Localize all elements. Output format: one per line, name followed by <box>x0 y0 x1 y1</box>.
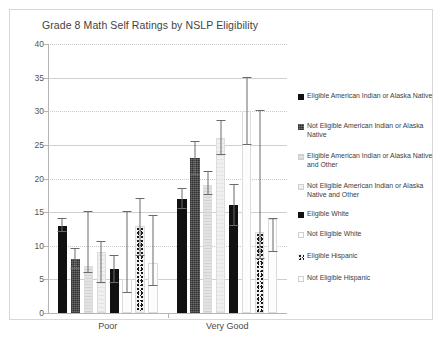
error-bar-cap-lower <box>110 282 119 283</box>
y-axis-tick-mark <box>44 179 48 180</box>
chart-frame: Grade 8 Math Self Ratings by NSLP Eligib… <box>9 9 433 320</box>
error-bar <box>58 219 67 313</box>
legend-swatch-icon <box>298 154 304 160</box>
error-bar-cap-upper <box>177 188 186 189</box>
error-bar-stem <box>181 189 182 209</box>
legend-swatch-icon <box>298 276 304 282</box>
error-bar-cap-upper <box>110 255 119 256</box>
y-axis-tick-label: 35 <box>18 73 44 83</box>
y-axis-tick-label: 0 <box>18 308 44 318</box>
y-axis-tick-label: 15 <box>18 207 44 217</box>
legend-item[interactable]: Not Eligible American Indian or Alaska N… <box>298 122 443 139</box>
error-bar-cap-lower <box>216 154 225 155</box>
error-bar-cap-lower <box>268 251 277 252</box>
legend-item[interactable]: Eligible American Indian or Alaska Nativ… <box>298 152 443 169</box>
legend-item-label: Not Eligible White <box>307 230 361 239</box>
error-bar-cap-upper <box>84 211 93 212</box>
error-bar-stem <box>140 199 141 256</box>
legend-item[interactable]: Eligible American Indian or Alaska Nativ… <box>298 92 432 101</box>
legend-swatch-icon <box>298 232 304 238</box>
y-axis-tick-mark <box>44 212 48 213</box>
y-axis-tick-label: 20 <box>18 174 44 184</box>
error-bar <box>84 212 93 313</box>
legend-item-label: Not Eligible American Indian or Alaska N… <box>307 122 443 139</box>
error-bar <box>203 172 212 313</box>
error-bar-cap-lower <box>97 282 106 283</box>
error-bar-cap-upper <box>268 218 277 219</box>
error-bar-cap-upper <box>203 171 212 172</box>
x-axis-category-label: Very Good <box>168 321 288 331</box>
error-bar <box>255 111 264 313</box>
legend-item-label: Eligible American Indian or Alaska Nativ… <box>307 92 432 101</box>
legend-swatch-icon <box>298 212 304 218</box>
y-axis-tick-mark <box>44 279 48 280</box>
error-bar-cap-upper <box>71 248 80 249</box>
y-axis-tick-mark <box>44 313 48 314</box>
legend-item-label: Eligible American Indian or Alaska Nativ… <box>307 152 443 169</box>
error-bar-cap-upper <box>255 110 264 111</box>
error-bar-stem <box>101 242 102 282</box>
x-axis-separator <box>168 313 169 318</box>
error-bar-cap-upper <box>123 211 132 212</box>
error-bar-cap-lower <box>58 231 67 232</box>
legend-item-label: Eligible White <box>307 210 349 219</box>
error-bar <box>216 121 225 313</box>
error-bar <box>229 185 238 313</box>
error-bar-stem <box>220 121 221 155</box>
error-bar-cap-upper <box>242 77 251 78</box>
legend-item[interactable]: Not Eligible American Indian or Alaska N… <box>298 182 443 199</box>
error-bar-cap-upper <box>229 184 238 185</box>
y-axis-tick-label: 10 <box>18 241 44 251</box>
error-bar-cap-upper <box>149 215 158 216</box>
x-axis-category-label: Poor <box>48 321 168 331</box>
plot-area <box>48 44 287 313</box>
error-bar-stem <box>153 216 154 287</box>
legend-item-label: Not Eligible Hispanic <box>307 274 370 283</box>
error-bar-stem <box>259 111 260 259</box>
error-bar-cap-lower <box>177 208 186 209</box>
error-bar <box>122 212 131 313</box>
error-bar-cap-upper <box>136 198 145 199</box>
legend-item-label: Not Eligible American Indian or Alaska N… <box>307 182 443 199</box>
legend-item[interactable]: Eligible White <box>298 210 349 219</box>
error-bar-stem <box>88 212 89 273</box>
y-axis-tick-label: 25 <box>18 140 44 150</box>
legend-swatch-icon <box>298 94 304 100</box>
legend-item[interactable]: Not Eligible White <box>298 230 361 239</box>
error-bar-cap-lower <box>136 255 145 256</box>
y-axis-tick-label: 5 <box>18 274 44 284</box>
gridline <box>48 44 287 45</box>
error-bar-cap-lower <box>149 285 158 286</box>
error-bar-stem <box>127 212 128 293</box>
chart-title: Grade 8 Math Self Ratings by NSLP Eligib… <box>10 19 290 31</box>
error-bar <box>110 256 119 313</box>
error-bar-stem <box>62 219 63 232</box>
error-bar-stem <box>246 78 247 145</box>
error-bar-stem <box>272 219 273 253</box>
legend-swatch-icon <box>298 124 304 130</box>
y-axis-tick-label: 40 <box>18 39 44 49</box>
legend-swatch-icon <box>298 184 304 190</box>
y-axis-tick-label: 30 <box>18 106 44 116</box>
error-bar <box>97 242 106 313</box>
error-bar <box>148 216 157 314</box>
legend-item-label: Eligible Hispanic <box>307 252 358 261</box>
y-axis-tick-mark <box>44 111 48 112</box>
error-bar-stem <box>75 249 76 269</box>
error-bar-stem <box>194 142 195 176</box>
error-bar <box>242 78 251 313</box>
error-bar-stem <box>233 185 234 225</box>
legend-item[interactable]: Not Eligible Hispanic <box>298 274 370 283</box>
error-bar-cap-lower <box>71 268 80 269</box>
y-axis <box>48 44 49 313</box>
error-bar-cap-lower <box>84 272 93 273</box>
error-bar-stem <box>114 256 115 283</box>
error-bar-cap-upper <box>58 218 67 219</box>
y-axis-tick-mark <box>44 145 48 146</box>
error-bar-cap-lower <box>242 144 251 145</box>
error-bar-stem <box>207 172 208 196</box>
error-bar-cap-lower <box>255 258 264 259</box>
y-axis-tick-mark <box>44 246 48 247</box>
legend-item[interactable]: Eligible Hispanic <box>298 252 358 261</box>
error-bar <box>190 142 199 313</box>
